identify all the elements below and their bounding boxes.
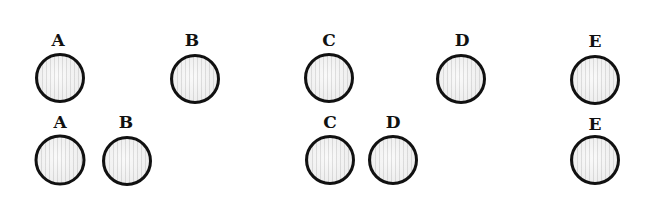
label-bottom-a: A: [53, 114, 66, 131]
label-top-c: C: [322, 32, 336, 49]
disc-top-e: [570, 55, 620, 105]
disc-top-a: [35, 53, 85, 103]
label-top-e: E: [589, 33, 602, 50]
lettered-discs-diagram: A B C D E A B C D E: [0, 0, 646, 215]
disc-bottom-e: [570, 135, 620, 185]
label-bottom-c: C: [323, 114, 337, 131]
label-bottom-d: D: [386, 114, 401, 131]
disc-top-b: [170, 54, 220, 104]
label-top-d: D: [455, 32, 470, 49]
disc-top-c: [304, 53, 354, 103]
label-bottom-b: B: [119, 114, 133, 131]
disc-bottom-a: [35, 135, 86, 186]
disc-bottom-d: [368, 135, 418, 185]
disc-top-d: [436, 54, 486, 104]
label-bottom-e: E: [589, 116, 602, 133]
label-top-a: A: [51, 32, 64, 49]
label-top-b: B: [185, 32, 199, 49]
disc-bottom-c: [305, 135, 355, 185]
disc-bottom-b: [102, 136, 152, 186]
